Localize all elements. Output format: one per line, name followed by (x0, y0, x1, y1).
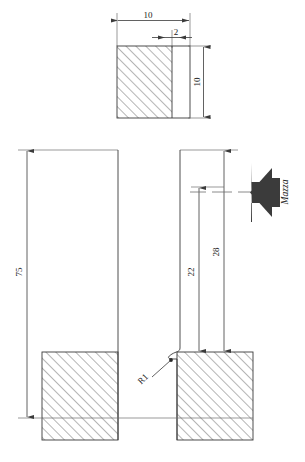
mazza-label: Mazza (280, 179, 290, 205)
overall-height-dimension: 75 (14, 151, 27, 417)
top-view-group: 10 2 10 (117, 10, 211, 118)
top-width-label: 10 (144, 10, 154, 20)
bottom-left-block (42, 352, 118, 440)
top-height-dimension: 10 (188, 46, 211, 118)
top-block-hatched-area (117, 46, 172, 118)
top-width-dimension: 10 (117, 10, 190, 46)
mazza-annotation: Mazza (250, 163, 290, 222)
main-view-group: 75 28 22 (14, 150, 290, 440)
technical-drawing-svg: 10 2 10 (0, 0, 305, 462)
top-height-label: 10 (192, 77, 202, 87)
fillet-callout: R1 (136, 360, 171, 386)
top-block-body (117, 46, 190, 118)
outer-height-label: 28 (211, 247, 221, 257)
overall-height-label: 75 (14, 267, 24, 277)
inner-height-dimension: 22 (186, 187, 224, 351)
outer-height-dimension: 28 (211, 151, 224, 351)
fillet-label: R1 (136, 372, 151, 387)
inner-height-label: 22 (186, 268, 196, 277)
bottom-left-block-hatch (42, 352, 118, 440)
bottom-right-block (177, 352, 253, 440)
top-notch-dimension: 2 (152, 27, 192, 48)
main-center-column (118, 150, 180, 440)
top-notch-label: 2 (174, 27, 179, 37)
technical-drawing-canvas: 10 2 10 (0, 0, 305, 462)
bottom-right-block-hatch (177, 352, 253, 440)
